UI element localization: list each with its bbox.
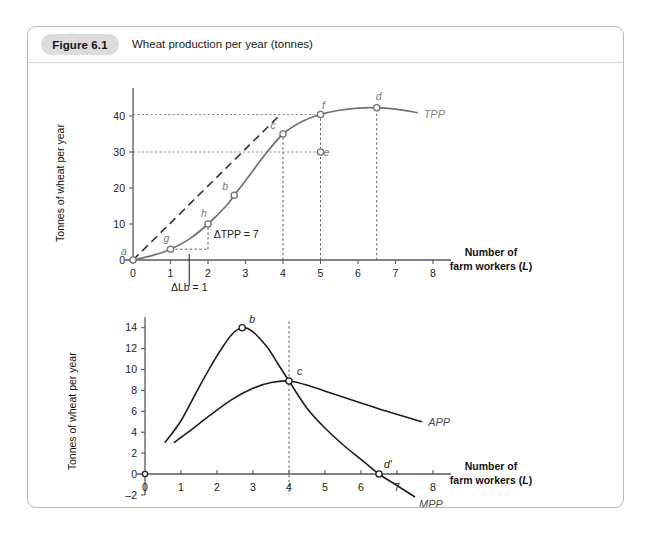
top-x-ticklabel-7: 7 [393, 267, 399, 279]
point-b [239, 325, 245, 331]
figure-caption: Wheat production per year (tonnes) [132, 38, 313, 50]
annotation-delta-tpp: ΔTPP = 7 [214, 228, 259, 240]
point-h [205, 221, 211, 227]
bottom-y-ticklabel-6: 10 [125, 363, 137, 375]
point-label-c: c [297, 365, 303, 377]
point-a [130, 257, 136, 263]
bottom-x-ticklabel-8: 8 [430, 481, 436, 493]
figure-panel: Figure 6.1 Wheat production per year (to… [27, 26, 624, 508]
point-label-b: b [222, 180, 228, 192]
point-label-e: e [324, 146, 330, 158]
point-dprime [376, 471, 382, 477]
top-y-ticklabel-1: 10 [113, 218, 125, 230]
bottom-y-ticklabel-3: 4 [131, 426, 137, 438]
bottom-x-ticklabel-2: 2 [214, 481, 220, 493]
top-x-ticklabel-8: 8 [430, 267, 436, 279]
bottom-y-ticklabel-7: 12 [125, 342, 137, 354]
annotation-delta-lb: ΔLb = 1 [171, 281, 208, 293]
point-label-b: b [249, 313, 255, 325]
curve-label-TPP: TPP [424, 108, 446, 120]
series-APP [174, 381, 422, 443]
point-label-dprime: d′ [384, 458, 393, 470]
top-x-ticklabel-0: 0 [130, 267, 136, 279]
point-f [317, 111, 323, 117]
point-c [286, 378, 292, 384]
figure-plot-area: 010203040012345678Tonnes of wheat per ye… [28, 63, 623, 507]
point-b [231, 192, 237, 198]
figure-number-badge: Figure 6.1 [41, 34, 119, 55]
top-x-axis-title-line2: farm workers (L) [450, 260, 532, 272]
top-y-axis-title: Tonnes of wheat per year [54, 124, 66, 242]
top-x-ticklabel-1: 1 [168, 267, 174, 279]
bottom-y-ticklabel-4: 6 [131, 405, 137, 417]
top-y-ticklabel-4: 40 [113, 110, 125, 122]
top-y-ticklabel-2: 20 [113, 182, 125, 194]
bottom-origin-marker [142, 471, 147, 476]
top-x-ticklabel-3: 3 [243, 267, 249, 279]
top-tpp-chart: 010203040012345678Tonnes of wheat per ye… [54, 88, 532, 293]
point-label-a: a [121, 245, 127, 257]
bottom-x-ticklabel-3: 3 [250, 481, 256, 493]
top-x-ticklabel-4: 4 [280, 267, 286, 279]
bottom-y-ticklabel-8: 14 [125, 321, 137, 333]
top-y-ticklabel-3: 30 [113, 146, 125, 158]
point-label-f: f [322, 99, 326, 111]
point-d [374, 105, 380, 111]
bottom-x-ticklabel-6: 6 [358, 481, 364, 493]
curve-label-MPP: MPP [419, 498, 444, 507]
point-label-c: c [270, 119, 276, 131]
bottom-y-axis-title: Tonnes of wheat per year [66, 352, 78, 470]
figure-header: Figure 6.1 Wheat production per year (to… [28, 27, 623, 63]
top-x-ticklabel-2: 2 [205, 267, 211, 279]
series-ray-from-origin [133, 114, 281, 260]
bottom-y-ticklabel-5: 8 [131, 384, 137, 396]
bottom-y-ticklabel-1: 0 [131, 468, 137, 480]
bottom-x-axis-title-line1: Number of [465, 460, 518, 472]
bottom-y-ticklabel-2: 2 [131, 447, 137, 459]
point-g [167, 246, 173, 252]
top-x-ticklabel-5: 5 [318, 267, 324, 279]
point-label-g: g [164, 232, 170, 244]
top-x-ticklabel-6: 6 [355, 267, 361, 279]
bottom-x-ticklabel-4: 4 [286, 481, 292, 493]
top-x-axis-title-line1: Number of [465, 246, 518, 258]
bottom-x-ticklabel-5: 5 [322, 481, 328, 493]
point-label-d: d [376, 90, 383, 102]
point-label-h: h [201, 207, 207, 219]
bottom-x-ticklabel-0: 0 [142, 481, 148, 493]
bottom-app-mpp-chart: –202468101214012345678Tonnes of wheat pe… [66, 313, 532, 507]
bottom-x-axis-title-line2: farm workers (L) [450, 474, 532, 486]
bottom-y-ticklabel-0: –2 [125, 489, 137, 501]
point-c [280, 131, 286, 137]
charts-svg: 010203040012345678Tonnes of wheat per ye… [28, 63, 623, 507]
bottom-x-ticklabel-1: 1 [178, 481, 184, 493]
curve-label-APP: APP [427, 416, 451, 428]
